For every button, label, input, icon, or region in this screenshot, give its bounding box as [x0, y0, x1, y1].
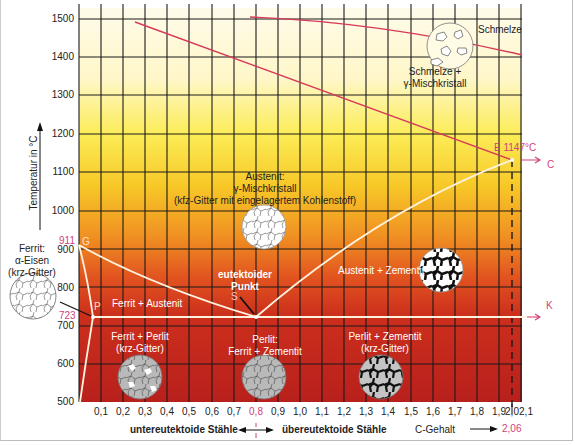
region-austenit-2: γ-Mischkristall: [170, 184, 360, 194]
micro-ferrit-perlit: [118, 355, 162, 399]
y-tick-600: 600: [40, 359, 74, 369]
x-tick: 1,1: [310, 407, 334, 417]
point-g-label: G: [82, 237, 90, 247]
region-ferrit-3: (krz-Gitter): [3, 268, 61, 278]
region-ferrit-austenit: Ferrit + Austenit: [112, 299, 182, 309]
x-tick: 0,6: [200, 407, 224, 417]
temp-723-label: 723: [59, 311, 76, 321]
y-tick-1000: 1000: [40, 206, 74, 216]
x-tick: 0,1: [89, 407, 113, 417]
x-tick: 1,6: [421, 407, 445, 417]
eutectoid-divider-icon: [238, 423, 274, 438]
point-e-label: E 1147°C: [494, 143, 536, 153]
c-arrow-icon: [522, 157, 540, 163]
x-tick: 0,7: [222, 407, 246, 417]
x-tick: 2,1: [514, 407, 538, 417]
y-tick-1300: 1300: [40, 90, 74, 100]
region-perlit-1: Perlit:: [220, 335, 310, 345]
point-k-label: K: [546, 301, 553, 311]
region-perlit-2: Ferrit + Zementit: [220, 347, 310, 357]
micro-perlit-zementit: [359, 355, 403, 399]
point-s: [254, 315, 258, 319]
y-tick-1200: 1200: [40, 129, 74, 139]
x-tick: 1,5: [399, 407, 423, 417]
region-schmelze-gamma-1: Schmelze +: [395, 67, 475, 77]
x-tick: 0,2: [111, 407, 135, 417]
y-tick-1400: 1400: [40, 52, 74, 62]
x-tick: 1,0: [288, 407, 312, 417]
region-austenit-1: Austenit:: [170, 172, 360, 182]
k-arrow-icon: [527, 314, 540, 320]
x-tick: 0,5: [177, 407, 201, 417]
x-tick: 1,4: [376, 407, 400, 417]
y-tick-800: 800: [40, 283, 74, 293]
micro-austenit-zementit: [419, 248, 463, 292]
region-ferrit-1: Ferrit:: [3, 244, 61, 254]
x-tick: 1,7: [443, 407, 467, 417]
point-p: [91, 315, 95, 319]
point-e: [510, 158, 514, 162]
region-schmelze: Schmelze: [478, 25, 522, 35]
micro-austenit: [242, 205, 286, 249]
x-axis-label: C-Gehalt: [415, 425, 455, 435]
x-tick: 0,4: [155, 407, 179, 417]
x-tick: 1,8: [465, 407, 489, 417]
point-s-label: S: [231, 292, 238, 302]
x-tick: 0,9: [266, 407, 290, 417]
region-austenit-3: (kfz-Gitter mit eingelagertem Kohlenstof…: [165, 196, 365, 206]
region-ferrit-perlit-2: (krz-Gitter): [100, 344, 180, 354]
region-perlit-zementit-1: Perlit + Zementit: [340, 332, 430, 342]
y-tick-700: 700: [40, 321, 74, 331]
y-tick-1100: 1100: [40, 167, 74, 177]
phase-diagram: [0, 0, 575, 445]
y-tick-500: 500: [40, 397, 74, 407]
point-c-label: C: [547, 160, 554, 170]
micro-perlit: [242, 355, 286, 399]
footer-untereutektoid: untereutektoide Stähle: [130, 425, 238, 435]
region-schmelze-gamma-2: γ-Mischkristall: [395, 79, 475, 89]
point-p-label: P: [94, 302, 101, 312]
x-tick-eutectoid: 0,8: [244, 407, 268, 417]
y-tick-1500: 1500: [40, 14, 74, 24]
region-ferrit-perlit-1: Ferrit + Perlit: [100, 332, 180, 342]
region-eutektoid-1: eutektoider: [205, 270, 285, 280]
region-ferrit-2: α-Eisen: [3, 256, 61, 266]
x-tick: 0,3: [133, 407, 157, 417]
region-austenit-zementit: Austenit + Zementit: [338, 266, 424, 276]
region-eutektoid-2: Punkt: [205, 282, 285, 292]
x-tick: 1,2: [332, 407, 356, 417]
x-tick: 1,3: [354, 407, 378, 417]
micro-ferrit: [10, 273, 56, 319]
temp-911-label: 911: [59, 236, 75, 246]
footer-uebereutektoid: übereutektoide Stähle: [282, 425, 386, 435]
x-marker-2-06: 2,06: [502, 424, 521, 434]
y-axis-label: Temperatur in °C: [29, 135, 39, 210]
region-perlit-zementit-2: (krz-Gitter): [340, 344, 430, 354]
